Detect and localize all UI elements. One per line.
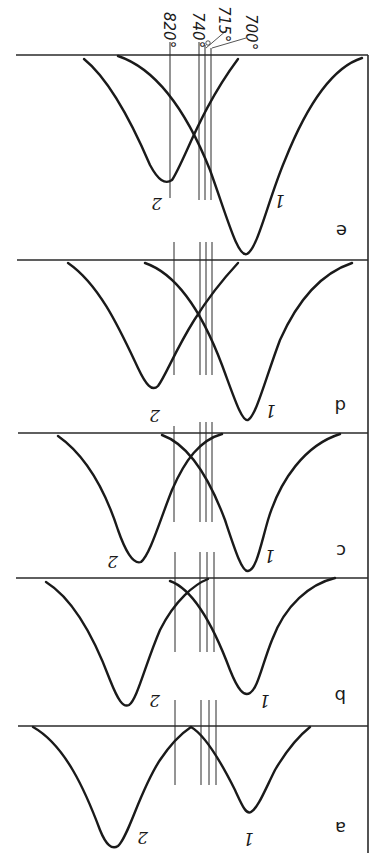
curve-label-1: 1 bbox=[274, 191, 285, 211]
curve-2 bbox=[33, 727, 191, 847]
curve-label-1: 1 bbox=[243, 829, 254, 849]
curve-label-2: 2 bbox=[149, 406, 161, 426]
diagram-figure: 820° 740° 715° 700° 2 1 e 2 1 d bbox=[0, 0, 377, 859]
temp-label-820: 820° bbox=[160, 12, 178, 48]
curve-label-1: 1 bbox=[265, 401, 276, 421]
temperature-labels: 820° 740° 715° 700° bbox=[160, 6, 260, 50]
panel-label-d: d bbox=[335, 396, 346, 417]
panel-label-a: a bbox=[335, 818, 346, 839]
panel-e: 2 1 e bbox=[16, 42, 368, 254]
curve-label-2: 2 bbox=[151, 194, 163, 214]
curve-1 bbox=[145, 263, 352, 420]
temp-label-700: 700° bbox=[242, 14, 260, 50]
curve-label-1: 1 bbox=[264, 546, 275, 566]
curve-1 bbox=[162, 434, 340, 571]
temp-label-740: 740° bbox=[189, 12, 207, 48]
panel-label-c: c bbox=[336, 541, 346, 562]
curve-label-2: 2 bbox=[137, 828, 149, 848]
curve-label-1: 1 bbox=[259, 691, 270, 711]
curve-2 bbox=[84, 59, 238, 182]
temp-label-715: 715° bbox=[215, 6, 233, 42]
panel-label-b: b bbox=[335, 686, 346, 707]
panel-d: 2 1 d bbox=[17, 242, 368, 426]
curve-1 bbox=[170, 578, 335, 694]
curve-label-2: 2 bbox=[149, 691, 161, 711]
panel-a: 2 1 a bbox=[18, 700, 368, 849]
panel-b: 2 1 b bbox=[16, 552, 368, 711]
curve-2 bbox=[46, 579, 208, 706]
panel-label-e: e bbox=[336, 221, 347, 242]
panel-c: 2 1 c bbox=[18, 422, 368, 572]
curve-1 bbox=[118, 56, 362, 254]
curve-2 bbox=[58, 434, 222, 562]
curve-label-2: 2 bbox=[107, 552, 119, 572]
